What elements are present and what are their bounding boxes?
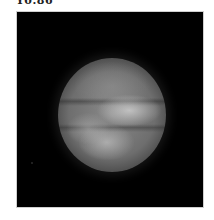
- sphere-image: [58, 58, 166, 172]
- noise-speck: [31, 162, 33, 164]
- image-panel: [16, 11, 204, 208]
- figure-caption: Y0.86: [16, 0, 53, 7]
- figure-canvas: Y0.86: [0, 0, 214, 220]
